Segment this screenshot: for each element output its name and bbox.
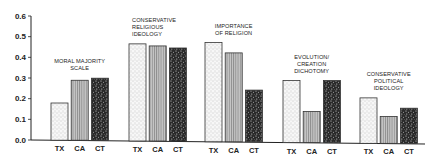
x-category-label: CT [173, 145, 183, 154]
group-label: MORAL MAJORITY [54, 58, 105, 64]
x-category-label: CA [306, 147, 317, 156]
bar-ca [303, 112, 320, 143]
group-label: CONSERVATIVE [132, 17, 176, 23]
x-category-label: CA [383, 147, 394, 156]
x-category-label: CA [74, 144, 85, 153]
bar-ct [400, 108, 417, 143]
group-label: DICHOTOMY [294, 68, 329, 74]
bar-tx [360, 98, 377, 143]
bar-ca [380, 116, 397, 143]
x-category-label: TX [209, 146, 219, 155]
bar-tx [51, 103, 68, 140]
group-label: IDEOLOGY [132, 31, 162, 37]
bar-ca [71, 80, 88, 140]
y-tick-label: 0.2 [15, 94, 27, 103]
y-tick-label: 0.6 [15, 12, 27, 21]
x-category-label: CT [404, 147, 414, 156]
y-tick-label: 0.1 [15, 115, 27, 124]
bar-ct [323, 81, 340, 143]
y-tick-label: 0.0 [15, 136, 27, 145]
bar-ct [169, 48, 186, 141]
group-label: IDEOLOGY [374, 85, 404, 91]
bar-tx [129, 44, 146, 141]
y-tick-label: 0.3 [15, 74, 27, 83]
bar-ct [245, 90, 262, 142]
x-category-label: CA [152, 145, 163, 154]
x-category-label: TX [364, 147, 374, 156]
bar-ca [225, 53, 242, 142]
group-label: CREATION [297, 61, 326, 67]
bar-tx [283, 81, 300, 143]
y-tick-label: 0.5 [15, 32, 27, 41]
group-label: OF RELIGION [215, 30, 252, 36]
x-category-label: TX [287, 147, 297, 156]
bars [51, 43, 417, 144]
x-category-label: CT [327, 147, 337, 156]
bar-ct [91, 78, 108, 140]
group-label: POLITICAL [374, 78, 404, 84]
group-label: RELIGIOUS [132, 24, 164, 30]
x-category-label: CA [228, 146, 239, 155]
x-category-label: TX [133, 145, 143, 154]
x-category-label: TX [55, 144, 65, 153]
x-category-label: CT [95, 144, 105, 153]
bar-ca [149, 46, 166, 141]
group-label: IMPORTANCE [215, 23, 253, 29]
y-tick-label: 0.4 [15, 53, 27, 62]
x-category-label: CT [249, 146, 259, 155]
group-label: SCALE [70, 65, 89, 71]
bar-chart: 0.00.10.20.30.40.50.6 TXCACTMORAL MAJORI… [0, 0, 430, 161]
group-label: CONSERVATIVE [367, 71, 411, 77]
bar-tx [205, 43, 222, 142]
group-label: EVOLUTION/ [294, 54, 329, 60]
